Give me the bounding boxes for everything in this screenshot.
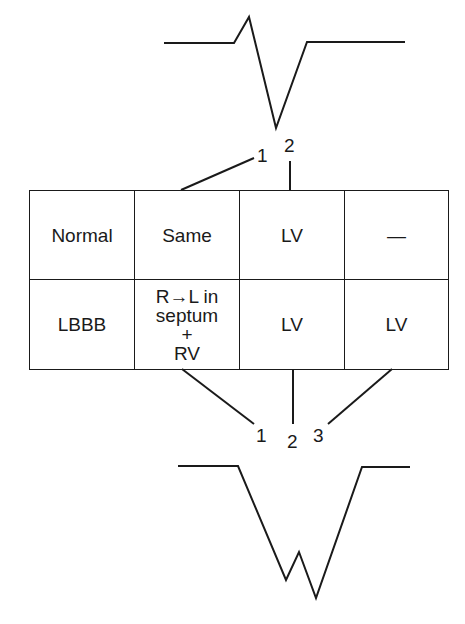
- phase-number-label: 2: [284, 136, 295, 155]
- cell-phase-2: LV: [240, 191, 345, 280]
- cell-phase-1: Same: [135, 191, 240, 280]
- cell-line: septum: [135, 306, 239, 325]
- phase-number-label: 2: [287, 432, 298, 451]
- cell-line: +: [135, 325, 239, 344]
- cell-phase-3: —: [345, 191, 449, 280]
- row-lbbb: LBBB R→L in septum + RV LV LV: [30, 280, 449, 370]
- leader-line: [182, 369, 254, 424]
- phase-number-label: 1: [257, 146, 268, 165]
- cell-phase-1: R→L in septum + RV: [135, 280, 240, 370]
- row-normal: Normal Same LV —: [30, 191, 449, 280]
- top-waveform: [164, 17, 405, 128]
- cell-phase-3: LV: [345, 280, 449, 370]
- cell-condition: LBBB: [30, 280, 135, 370]
- leader-line: [328, 369, 392, 424]
- bottom-waveform: [178, 466, 410, 598]
- cell-line: R→L in: [135, 287, 239, 306]
- leader-line: [181, 158, 254, 190]
- cell-condition: Normal: [30, 191, 135, 280]
- cell-phase-2: LV: [240, 280, 345, 370]
- phase-number-label: 3: [313, 426, 324, 445]
- cell-line: RV: [135, 344, 239, 363]
- phase-number-label: 1: [256, 426, 267, 445]
- conduction-table: Normal Same LV — LBBB R→L in septum + RV…: [29, 190, 449, 370]
